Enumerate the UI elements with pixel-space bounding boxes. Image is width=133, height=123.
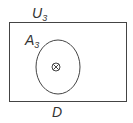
- set-ellipse: [36, 40, 80, 94]
- universe-label: U3: [32, 5, 47, 23]
- set-label: A3: [24, 32, 39, 50]
- domain-label: D: [52, 104, 62, 120]
- venn-diagram: U3 A3 D: [0, 0, 133, 123]
- circle-times-icon: [52, 63, 60, 71]
